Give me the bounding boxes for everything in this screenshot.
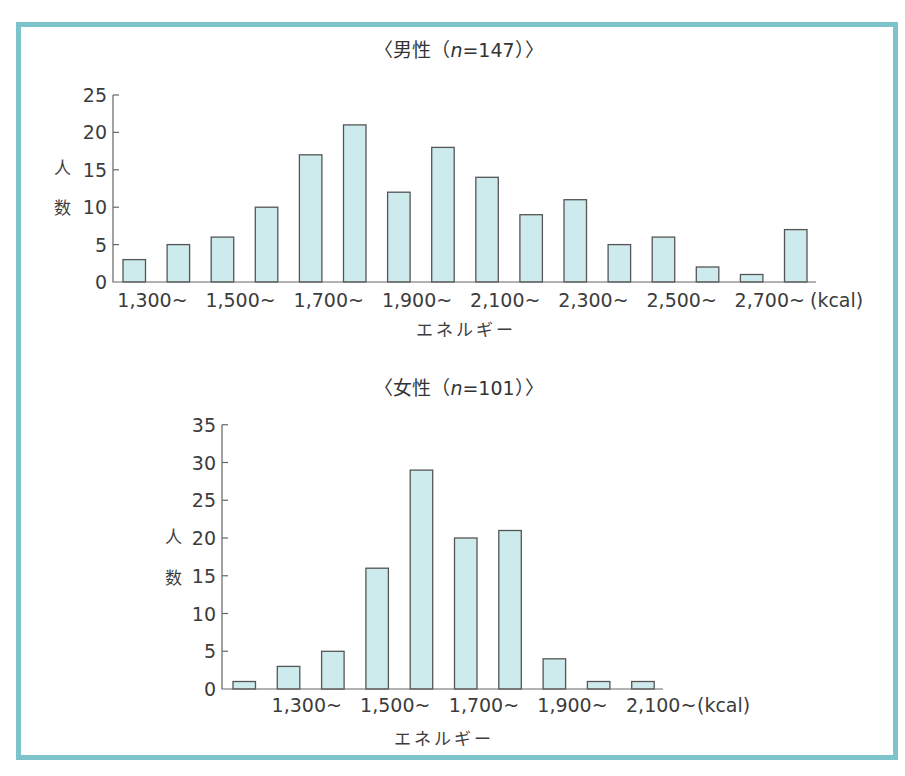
- x-tick-label: 2,100~: [626, 694, 696, 716]
- x-tick-label: 2,500~: [647, 289, 717, 311]
- histogram-figure: 〈男性（n=147）〉0510152025人数1,300~1,500~1,700…: [0, 0, 905, 776]
- x-tick-label: 1,900~: [537, 694, 607, 716]
- bar: [322, 651, 345, 689]
- x-tick-label: 1,300~: [272, 694, 342, 716]
- bar: [277, 666, 300, 689]
- bar: [499, 531, 522, 690]
- bar: [167, 245, 190, 282]
- bar: [255, 207, 277, 282]
- bar: [740, 275, 763, 283]
- bar: [564, 200, 587, 282]
- bar: [344, 125, 367, 282]
- y-tick-label: 15: [83, 159, 107, 181]
- chart-title: 〈女性（n=101）〉: [374, 377, 543, 399]
- x-tick-label: 2,300~: [558, 289, 628, 311]
- x-tick-label: 1,900~: [382, 289, 452, 311]
- bar: [587, 682, 610, 690]
- bar: [608, 245, 631, 282]
- y-tick-label: 5: [95, 234, 107, 256]
- y-tick-label: 20: [83, 121, 107, 143]
- x-tick-label: 2,100~: [470, 289, 540, 311]
- x-unit-label: (kcal): [810, 289, 863, 311]
- axes: [222, 425, 663, 689]
- female-chart: 〈女性（n=101）〉05101520253035人数1,300~1,500~1…: [165, 377, 751, 749]
- y-tick-label: 30: [192, 452, 216, 474]
- x-tick-label: 1,700~: [449, 694, 519, 716]
- x-axis-label: エネルギー: [416, 320, 516, 340]
- x-unit-label: (kcal): [697, 694, 750, 716]
- chart-title: 〈男性（n=147）〉: [374, 39, 543, 61]
- male-chart: 〈男性（n=147）〉0510152025人数1,300~1,500~1,700…: [54, 39, 864, 340]
- x-tick-label: 1,700~: [294, 289, 364, 311]
- bar: [366, 568, 389, 689]
- bar: [632, 682, 655, 690]
- bar: [299, 155, 322, 282]
- x-axis-label: エネルギー: [394, 729, 494, 749]
- y-axis-label: 人: [54, 158, 71, 178]
- x-tick-label: 1,500~: [360, 694, 430, 716]
- y-tick-label: 0: [95, 271, 107, 293]
- bar: [785, 230, 808, 282]
- y-tick-label: 10: [83, 196, 107, 218]
- y-tick-label: 5: [204, 640, 216, 662]
- bar: [233, 682, 256, 690]
- y-axis-label: 数: [54, 198, 71, 218]
- y-tick-label: 0: [204, 678, 216, 700]
- y-tick-label: 35: [192, 414, 216, 436]
- x-tick-label: 1,300~: [117, 289, 187, 311]
- bar: [696, 267, 719, 282]
- y-axis-label: 人: [165, 527, 182, 547]
- bar: [476, 177, 499, 282]
- y-tick-label: 15: [192, 565, 216, 587]
- y-tick-label: 20: [192, 527, 216, 549]
- bar: [520, 215, 543, 282]
- bar: [123, 260, 146, 282]
- bar: [432, 147, 455, 282]
- y-tick-label: 10: [192, 603, 216, 625]
- x-tick-label: 1,500~: [205, 289, 275, 311]
- bar: [455, 538, 478, 689]
- x-tick-label: 2,700~: [735, 289, 805, 311]
- y-tick-label: 25: [192, 489, 216, 511]
- bar: [652, 237, 675, 282]
- y-tick-label: 25: [83, 84, 107, 106]
- y-axis-label: 数: [165, 568, 182, 588]
- bar: [388, 192, 411, 282]
- bar: [543, 659, 566, 689]
- bar: [410, 470, 433, 689]
- bar: [211, 237, 234, 282]
